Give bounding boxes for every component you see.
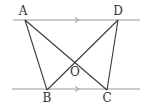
segment-db [47,20,118,90]
triangle-segments [25,20,118,90]
segment-ab [25,20,47,90]
point-label-o: O [70,66,80,78]
point-label-b: B [43,92,52,104]
segment-dc [107,20,118,90]
parallel-arrow-markers [75,18,79,92]
point-label-d: D [113,5,123,17]
segment-ac [25,20,107,90]
point-label-c: C [102,92,111,104]
point-label-a: A [19,5,28,17]
